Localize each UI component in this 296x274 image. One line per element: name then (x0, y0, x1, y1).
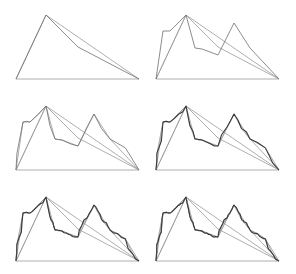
panel-step-1 (0, 0, 148, 91)
panel-step-2 (140, 0, 288, 91)
previous-outline (16, 197, 139, 261)
previous-outline (16, 106, 139, 170)
panel-step-5 (0, 182, 148, 273)
panel-step-4 (140, 91, 288, 182)
panel-step-6 (140, 182, 288, 273)
mountain-outline (16, 15, 139, 79)
previous-outline (156, 197, 279, 261)
previous-outline (156, 15, 279, 79)
panel-step-3 (0, 91, 148, 182)
previous-outline (156, 106, 279, 170)
fractal-mountain-figure (0, 0, 296, 274)
